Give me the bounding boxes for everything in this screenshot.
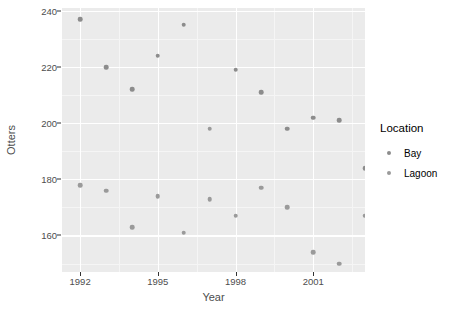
data-point bbox=[207, 197, 212, 202]
gridline-minor-horizontal bbox=[62, 39, 365, 40]
y-tick-mark bbox=[57, 10, 61, 11]
y-tick-mark bbox=[57, 123, 61, 124]
data-point bbox=[104, 188, 109, 193]
data-point bbox=[285, 205, 290, 210]
data-point bbox=[207, 126, 212, 131]
x-axis-title-label: Year bbox=[202, 291, 224, 303]
data-point bbox=[181, 23, 186, 28]
x-axis-title: Year bbox=[62, 291, 365, 303]
data-point bbox=[311, 115, 316, 120]
x-tick-label: 1995 bbox=[138, 276, 178, 287]
x-tick-mark bbox=[236, 272, 237, 276]
legend-key-icon bbox=[380, 144, 398, 162]
data-point bbox=[156, 194, 161, 199]
legend-entries: BayLagoon bbox=[380, 143, 437, 183]
legend-item-lagoon[interactable]: Lagoon bbox=[380, 163, 437, 183]
data-point bbox=[363, 214, 365, 219]
y-tick-label: 220 bbox=[23, 61, 57, 72]
gridline-major-vertical bbox=[313, 8, 314, 272]
data-point bbox=[311, 250, 316, 255]
data-point bbox=[181, 230, 186, 235]
gridline-major-vertical bbox=[80, 8, 81, 272]
y-tick-label: 200 bbox=[23, 118, 57, 129]
x-tick-label: 1992 bbox=[60, 276, 100, 287]
gridline-major-horizontal bbox=[62, 179, 365, 180]
y-tick-mark bbox=[57, 179, 61, 180]
gridline-minor-horizontal bbox=[62, 151, 365, 152]
gridline-minor-horizontal bbox=[62, 207, 365, 208]
legend-title: Location bbox=[380, 122, 437, 134]
legend-item-bay[interactable]: Bay bbox=[380, 143, 437, 163]
gridline-major-vertical bbox=[236, 8, 237, 272]
gridline-minor-vertical bbox=[119, 8, 120, 272]
gridline-minor-vertical bbox=[352, 8, 353, 272]
data-point bbox=[337, 118, 342, 123]
y-tick-mark bbox=[57, 235, 61, 236]
legend-item-label: Lagoon bbox=[404, 168, 437, 179]
x-tick-mark bbox=[313, 272, 314, 276]
data-point bbox=[233, 214, 238, 219]
data-point bbox=[285, 126, 290, 131]
gridline-major-horizontal bbox=[62, 123, 365, 124]
x-tick-label: 2001 bbox=[293, 276, 333, 287]
data-point bbox=[259, 90, 264, 95]
y-axis-title-label: Otters bbox=[5, 125, 17, 155]
data-point bbox=[337, 261, 342, 266]
x-tick-mark bbox=[80, 272, 81, 276]
data-point bbox=[78, 17, 83, 22]
gridline-minor-vertical bbox=[274, 8, 275, 272]
y-tick-label: 180 bbox=[23, 174, 57, 185]
gridline-minor-horizontal bbox=[62, 95, 365, 96]
gridline-major-horizontal bbox=[62, 235, 365, 236]
x-tick-label: 1998 bbox=[216, 276, 256, 287]
y-tick-mark bbox=[57, 66, 61, 67]
x-tick-mark bbox=[158, 272, 159, 276]
data-point bbox=[233, 67, 238, 72]
gridline-minor-horizontal bbox=[62, 264, 365, 265]
y-tick-label: 160 bbox=[23, 230, 57, 241]
gridline-major-vertical bbox=[158, 8, 159, 272]
legend-item-label: Bay bbox=[404, 148, 421, 159]
y-tick-label: 240 bbox=[23, 5, 57, 16]
data-point bbox=[130, 225, 135, 230]
data-point bbox=[130, 87, 135, 92]
scatter-plot: Otters 160180200220240 Year Location Bay… bbox=[0, 0, 455, 317]
plot-panel bbox=[62, 8, 365, 272]
data-point bbox=[156, 53, 161, 58]
gridline-minor-vertical bbox=[197, 8, 198, 272]
y-axis: 160180200220240 bbox=[18, 0, 57, 280]
data-point bbox=[363, 166, 365, 171]
legend: Location BayLagoon bbox=[380, 122, 437, 183]
legend-key-icon bbox=[380, 164, 398, 182]
data-point bbox=[78, 183, 83, 188]
data-point bbox=[259, 185, 264, 190]
data-point bbox=[104, 65, 109, 70]
gridline-major-horizontal bbox=[62, 11, 365, 12]
